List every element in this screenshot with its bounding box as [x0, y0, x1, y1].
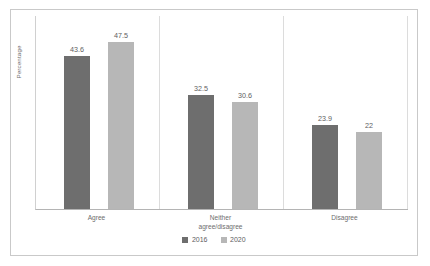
- bar-2016-neither[interactable]: 32.5: [188, 95, 214, 209]
- x-tick-line: Disagree: [283, 213, 406, 222]
- legend-swatch-icon: [182, 237, 188, 243]
- x-tick-line: Agree: [35, 213, 158, 222]
- group-separator-3: [407, 16, 408, 209]
- legend-label: 2020: [230, 236, 246, 243]
- plot-area: 43.6 47.5 32.5 30.6 23.9 22: [35, 16, 408, 210]
- bar-chart-figure: Percentage 43.6 47.5 32.5 30.6: [10, 9, 418, 256]
- bar-value-label: 32.5: [194, 84, 208, 93]
- x-tick-agree: Agree: [35, 213, 158, 222]
- x-tick-line: agree/disagree: [159, 222, 282, 231]
- bar-2016-disagree[interactable]: 23.9: [312, 125, 338, 209]
- bar-value-label: 23.9: [318, 114, 332, 123]
- legend-item-2016[interactable]: 2016: [182, 236, 207, 243]
- bar-value-label: 43.6: [70, 45, 84, 54]
- legend-label: 2016: [192, 236, 208, 243]
- bar-2020-disagree[interactable]: 22: [356, 132, 382, 209]
- bar-group-neither: 32.5 30.6: [160, 16, 283, 209]
- bar-group-disagree: 23.9 22: [284, 16, 407, 209]
- bar-value-label: 30.6: [238, 91, 252, 100]
- bar-group-agree: 43.6 47.5: [36, 16, 159, 209]
- x-tick-line: Neither: [159, 213, 282, 222]
- bar-value-label: 22: [365, 121, 373, 130]
- bar-2020-neither[interactable]: 30.6: [232, 102, 258, 209]
- bar-2016-agree[interactable]: 43.6: [64, 56, 90, 209]
- y-axis-title: Percentage: [15, 22, 22, 102]
- x-tick-disagree: Disagree: [283, 213, 406, 222]
- bar-value-label: 47.5: [114, 31, 128, 40]
- legend-swatch-icon: [221, 237, 227, 243]
- legend: 2016 2020: [11, 236, 417, 243]
- legend-item-2020[interactable]: 2020: [221, 236, 246, 243]
- x-tick-neither: Neither agree/disagree: [159, 213, 282, 231]
- bar-2020-agree[interactable]: 47.5: [108, 42, 134, 209]
